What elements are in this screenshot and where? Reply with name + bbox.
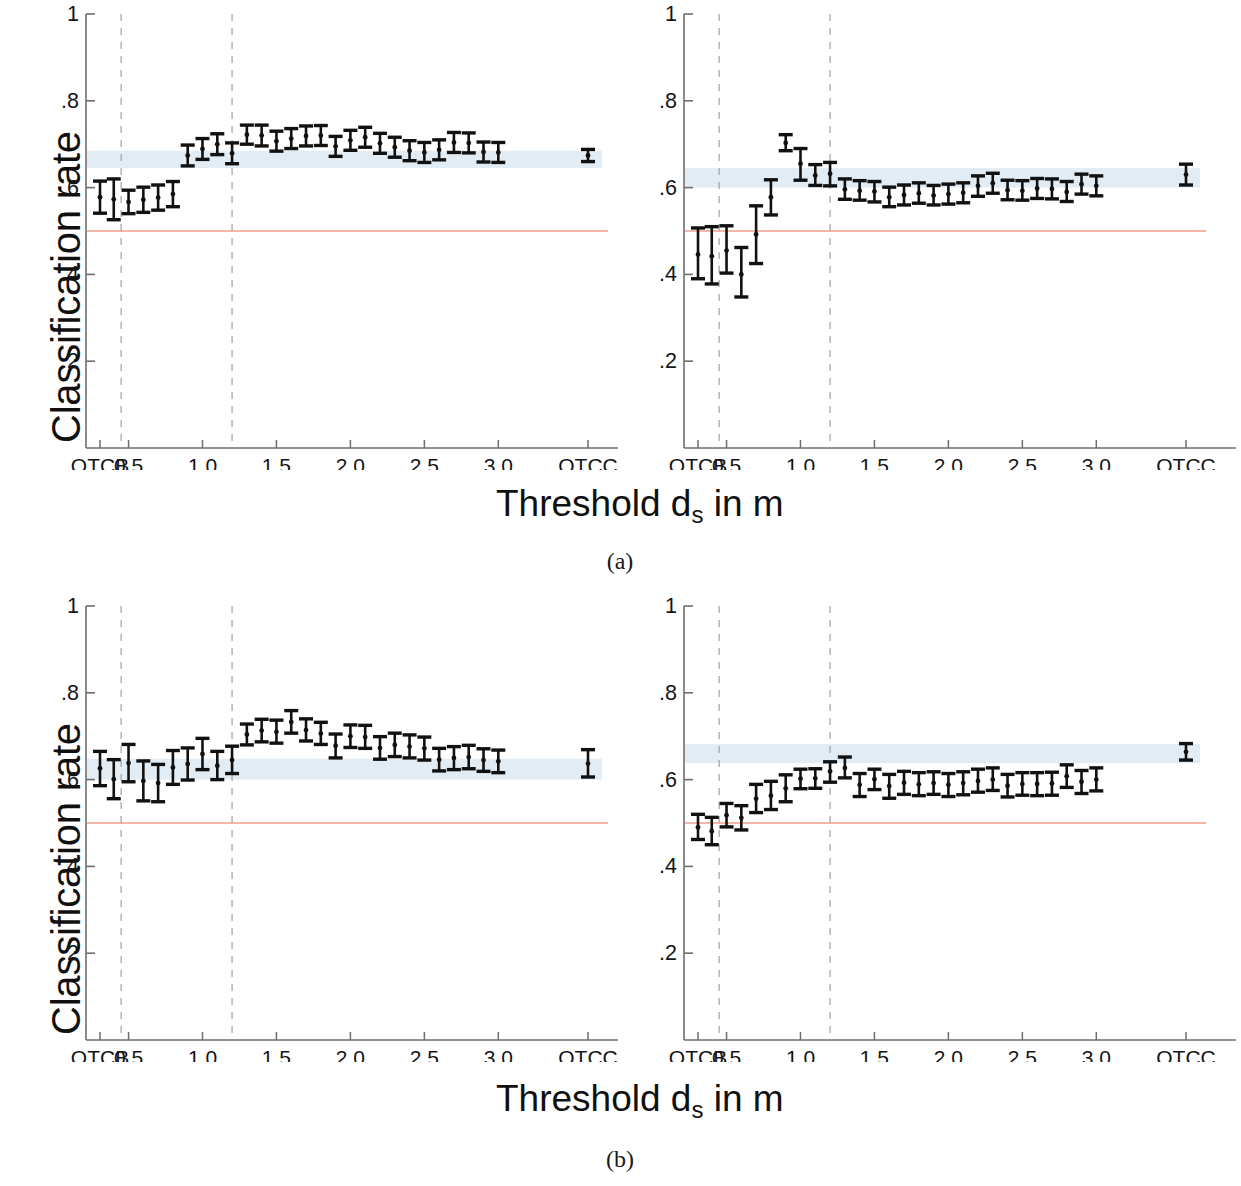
error-bar-point — [314, 722, 328, 744]
mean-marker — [931, 193, 936, 198]
mean-marker — [98, 766, 103, 771]
reference-band — [87, 151, 602, 168]
mean-marker — [185, 153, 190, 158]
error-bar-point — [808, 769, 822, 789]
mean-marker — [259, 133, 264, 138]
mean-marker — [111, 197, 116, 202]
error-bar-point — [1089, 768, 1103, 791]
mean-marker — [857, 188, 862, 193]
error-bar-point — [1001, 774, 1015, 797]
x-tick-label: 2.0 — [336, 1046, 365, 1062]
mean-marker — [141, 197, 146, 202]
mean-marker — [916, 782, 921, 787]
chart-panel-a-left: 0.20.40.60.81QTCB0.51.01.52.02.53.0QTCC — [62, 0, 622, 470]
x-tick-label: 2.5 — [1008, 454, 1037, 470]
mean-marker — [887, 195, 892, 200]
y-tick-label: 0.6 — [660, 768, 677, 792]
y-tick-label: 1 — [67, 594, 79, 618]
y-tick-label: 0.6 — [62, 176, 79, 200]
mean-marker — [828, 769, 833, 774]
data-series — [691, 135, 1193, 297]
mean-marker — [244, 732, 249, 737]
mean-marker — [1094, 183, 1099, 188]
mean-marker — [289, 136, 294, 141]
mean-marker — [156, 781, 161, 786]
mean-marker — [931, 781, 936, 786]
error-bar-point — [1075, 770, 1089, 793]
mean-marker — [872, 777, 877, 782]
y-tick-label: 0.8 — [62, 681, 79, 705]
x-tick-label: 2.0 — [934, 454, 963, 470]
mean-marker — [1184, 172, 1189, 177]
error-bar-point — [897, 185, 911, 205]
mean-marker — [857, 782, 862, 787]
mean-marker — [1050, 781, 1055, 786]
error-bar-point — [764, 781, 778, 809]
y-tick-label: 1 — [665, 2, 677, 26]
mean-marker — [378, 746, 383, 751]
mean-marker — [171, 765, 176, 770]
error-bar-point — [358, 127, 372, 147]
y-tick-label: 0.2 — [62, 941, 79, 965]
x-tick-label: 1.5 — [860, 1046, 889, 1062]
mean-marker — [185, 762, 190, 767]
error-bar-point — [734, 806, 748, 830]
error-bar-point — [779, 775, 793, 802]
y-tick-label: 0.2 — [660, 941, 677, 965]
error-bar-point — [329, 734, 343, 758]
mean-marker — [976, 183, 981, 188]
mean-marker — [200, 147, 205, 152]
chart-svg-b-left: 0.20.40.60.81QTCB0.51.01.52.02.53.0QTCC — [62, 592, 622, 1062]
error-bar-point — [447, 132, 461, 152]
mean-marker — [378, 141, 383, 146]
mean-marker — [724, 813, 729, 818]
x-tick-label: QTCC — [558, 1046, 618, 1062]
mean-marker — [739, 815, 744, 820]
error-bar-point — [403, 735, 417, 758]
x-tick-label: 1.5 — [860, 454, 889, 470]
mean-marker — [171, 192, 176, 197]
mean-marker — [126, 200, 131, 205]
error-bar-point — [912, 773, 926, 796]
y-tick-label: 0.6 — [62, 768, 79, 792]
error-bar-point — [956, 772, 970, 795]
reference-band — [87, 759, 602, 780]
mean-marker — [230, 758, 235, 763]
error-bar-point — [93, 181, 107, 213]
mean-marker — [481, 758, 486, 763]
mean-marker — [754, 232, 759, 237]
error-bar-point — [373, 737, 387, 760]
error-bar-point — [269, 131, 283, 151]
mean-marker — [126, 761, 131, 766]
mean-marker — [348, 734, 353, 739]
x-tick-label: QTCC — [1156, 454, 1216, 470]
mean-marker — [481, 150, 486, 155]
mean-marker — [961, 781, 966, 786]
x-tick-label: 2.0 — [934, 1046, 963, 1062]
mean-marker — [1035, 186, 1040, 191]
error-bar-point — [122, 190, 136, 213]
error-bar-point — [853, 774, 867, 797]
mean-marker — [141, 779, 146, 784]
mean-marker — [304, 134, 309, 139]
error-bar-point — [927, 772, 941, 795]
y-tick-label: 0.4 — [660, 262, 677, 286]
mean-marker — [990, 777, 995, 782]
mean-marker — [709, 829, 714, 834]
error-bar-point — [166, 182, 180, 207]
error-bar-point — [705, 227, 719, 284]
error-bar-point — [897, 771, 911, 794]
subfigure-caption-b: (b) — [580, 1146, 660, 1173]
error-bar-point — [705, 817, 719, 844]
error-bar-point — [255, 125, 269, 146]
mean-marker — [1020, 188, 1025, 193]
error-bar-point — [462, 133, 476, 153]
error-bar-point — [314, 126, 328, 146]
mean-marker — [215, 763, 220, 768]
mean-marker — [289, 719, 294, 724]
mean-marker — [230, 151, 235, 156]
error-bar-point — [343, 130, 357, 150]
error-bar-point — [107, 179, 121, 220]
figure-root: Classification rate 0.20.40.60.81QTCB0.5… — [0, 0, 1241, 1186]
y-tick-label: 0.4 — [62, 262, 79, 286]
